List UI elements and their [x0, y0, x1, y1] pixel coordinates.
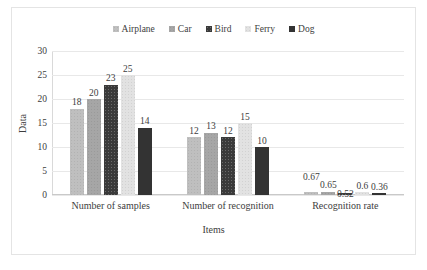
legend-label-ferry: Ferry — [254, 24, 275, 34]
y-axis-tick-label: 20 — [38, 94, 48, 104]
legend-label-dog: Dog — [298, 24, 314, 34]
bar-value-label: 0.6 — [356, 182, 368, 192]
x-axis-tick-label: Recognition rate — [312, 200, 378, 211]
legend-item-bird: Bird — [206, 24, 232, 34]
chart-legend: Airplane Car Bird Ferry Dog — [0, 24, 427, 34]
legend-item-car: Car — [169, 24, 192, 34]
legend-swatch-ferry — [245, 26, 251, 32]
y-axis-tick-label: 30 — [38, 46, 48, 56]
bar-dog: 0.36 — [372, 193, 386, 195]
bar-value-label: 0.52 — [337, 190, 354, 200]
y-axis-tick-label: 0 — [42, 190, 47, 200]
bar-value-label: 0.67 — [303, 173, 320, 183]
legend-label-car: Car — [178, 24, 192, 34]
bar-group: 0.670.650.520.60.36 — [52, 51, 404, 195]
y-axis-tick-label: 10 — [38, 142, 48, 152]
legend-swatch-dog — [289, 26, 295, 32]
y-axis-title-text: Data — [17, 114, 28, 133]
y-axis-tick-label: 15 — [38, 118, 48, 128]
legend-label-airplane: Airplane — [122, 24, 155, 34]
legend-swatch-bird — [206, 26, 212, 32]
x-axis-tick-label: Number of recognition — [182, 200, 274, 211]
y-axis-tick-label: 5 — [42, 166, 47, 176]
x-axis-title: Items — [0, 224, 427, 235]
bar-airplane: 0.67 — [304, 192, 318, 195]
x-axis-tick-label: Number of samples — [71, 200, 149, 211]
plot-area: 051015202530182023251412131215100.670.65… — [52, 51, 404, 195]
bar-value-label: 0.65 — [320, 181, 337, 191]
bar-car: 0.65 — [321, 192, 335, 195]
legend-label-bird: Bird — [215, 24, 232, 34]
legend-swatch-car — [169, 26, 175, 32]
bar-bird: 0.52 — [338, 193, 352, 195]
legend-item-airplane: Airplane — [113, 24, 155, 34]
bar-value-label: 0.36 — [371, 183, 388, 193]
legend-swatch-airplane — [113, 26, 119, 32]
bar-chart-figure: Airplane Car Bird Ferry Dog Data 0510152… — [0, 0, 427, 270]
bar-ferry: 0.6 — [355, 192, 369, 195]
legend-item-ferry: Ferry — [245, 24, 275, 34]
y-axis-tick-label: 25 — [38, 70, 48, 80]
legend-item-dog: Dog — [289, 24, 314, 34]
y-axis-title: Data — [13, 51, 32, 195]
